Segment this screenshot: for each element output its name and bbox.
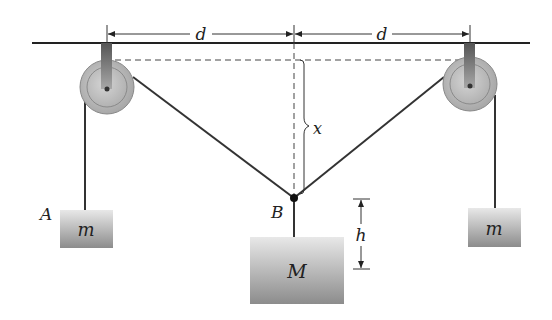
- label-mass-center: M: [286, 260, 307, 282]
- dimension-d-left: d: [107, 24, 294, 44]
- label-h: h: [356, 225, 367, 245]
- junction-point-b: [290, 194, 298, 202]
- mass-left: m: [60, 210, 113, 248]
- rope-left-diagonal: [133, 77, 294, 198]
- hanger-left: [101, 43, 112, 89]
- label-mass-right: m: [485, 218, 502, 239]
- label-d-right: d: [377, 24, 388, 44]
- hanger-right: [464, 43, 475, 88]
- dimension-d-right: d: [295, 24, 470, 44]
- label-a: A: [38, 204, 52, 224]
- pulley-diagram: d d x B A m: [0, 0, 552, 320]
- label-mass-left: m: [77, 219, 94, 240]
- x-brace: x: [300, 60, 322, 194]
- mass-center: M: [250, 237, 344, 304]
- dimension-h: h: [353, 199, 370, 269]
- mass-right: m: [468, 208, 521, 247]
- label-d-left: d: [196, 24, 207, 44]
- label-x: x: [313, 119, 322, 138]
- label-b: B: [270, 202, 284, 222]
- pulley-left: [80, 43, 134, 114]
- pulley-right: [443, 43, 497, 111]
